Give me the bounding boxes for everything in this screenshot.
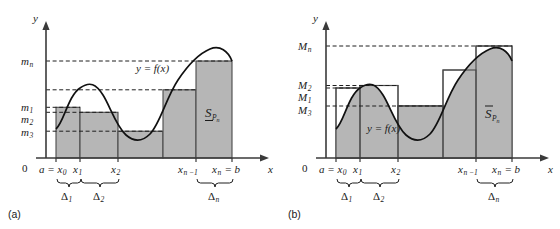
- origin-label: 0: [302, 162, 308, 174]
- y-gridline-labels: Mn M2 M1 M3: [297, 40, 312, 118]
- interval-labels: Δ1 Δ2 Δn: [341, 190, 500, 204]
- upper-sum-shaded-subregions: [336, 46, 512, 158]
- x-axis-label: x: [267, 163, 273, 175]
- rect-interval-1: [56, 107, 80, 158]
- y-gridline-labels: mn m1 m2 m3: [21, 55, 33, 140]
- figure-root: y x 0 mn m1 m2 m3 y = f(x): [0, 0, 560, 229]
- xtick-label-x0: a = x0: [319, 163, 347, 177]
- xtick-label-xn-1: xn −1: [457, 163, 478, 177]
- interval-labels: Δ1 Δ2 Δn: [61, 190, 220, 204]
- xtick-label-x2: x2: [390, 163, 400, 177]
- xtick-label-x1: x1: [352, 163, 362, 177]
- brace-deltan: [477, 179, 513, 187]
- x-axis-arrow-icon: [540, 154, 549, 161]
- brace-delta1: [57, 179, 81, 187]
- rect-interval-3: [118, 131, 163, 158]
- label-M3: M3: [297, 104, 312, 118]
- brace-delta1: [337, 179, 361, 187]
- interval-label-delta2: Δ2: [93, 190, 105, 204]
- rect-interval-n: [196, 61, 232, 158]
- x-tick-labels: a = x0 x1 x2 xn −1 xn = b: [39, 163, 241, 177]
- area-reshade-top: [336, 48, 512, 158]
- brace-delta2: [361, 179, 399, 187]
- xtick-label-x2: x2: [110, 163, 120, 177]
- curve-label: y = f(x): [135, 62, 169, 75]
- xtick-label-x1: x1: [72, 163, 82, 177]
- y-axis-label: y: [312, 12, 318, 24]
- xtick-label-xn: xn = b: [491, 163, 521, 177]
- brace-delta2: [81, 179, 119, 187]
- lower-sum-chart: y x 0 mn m1 m2 m3 y = f(x): [0, 0, 280, 229]
- panel-upper-sum: y x 0 Mn M2 M1 M3 y = f(x): [280, 0, 560, 229]
- interval-label-deltan: Δn: [488, 190, 500, 204]
- x-axis-arrow-icon: [260, 154, 269, 161]
- label-Mn: Mn: [297, 40, 312, 54]
- origin-label: 0: [22, 162, 28, 174]
- y-axis-arrow-icon: [42, 21, 49, 30]
- interval-braces: [337, 179, 513, 187]
- y-axis-label: y: [32, 12, 38, 24]
- label-mn: mn: [21, 55, 33, 69]
- interval-label-deltan: Δn: [208, 190, 220, 204]
- interval-label-delta2: Δ2: [373, 190, 385, 204]
- x-tick-labels: a = x0 x1 x2 xn −1 xn = b: [319, 163, 521, 177]
- interval-label-delta1: Δ1: [341, 190, 352, 204]
- y-axis-arrow-icon: [322, 21, 329, 30]
- panel-caption-b: (b): [288, 208, 301, 220]
- panel-caption-a: (a): [8, 208, 21, 220]
- upper-sum-chart: y x 0 Mn M2 M1 M3 y = f(x): [280, 0, 560, 229]
- xtick-label-xn: xn = b: [211, 163, 241, 177]
- xtick-label-xn-1: xn −1: [177, 163, 198, 177]
- panel-lower-sum: y x 0 mn m1 m2 m3 y = f(x): [0, 0, 280, 229]
- interval-braces: [57, 179, 233, 187]
- label-m3: m3: [21, 126, 33, 140]
- x-axis-label: x: [547, 163, 553, 175]
- curve-label: y = f(x): [366, 122, 400, 135]
- brace-deltan: [197, 179, 233, 187]
- xtick-label-x0: a = x0: [39, 163, 67, 177]
- rect-interval-2: [80, 112, 118, 158]
- interval-label-delta1: Δ1: [61, 190, 72, 204]
